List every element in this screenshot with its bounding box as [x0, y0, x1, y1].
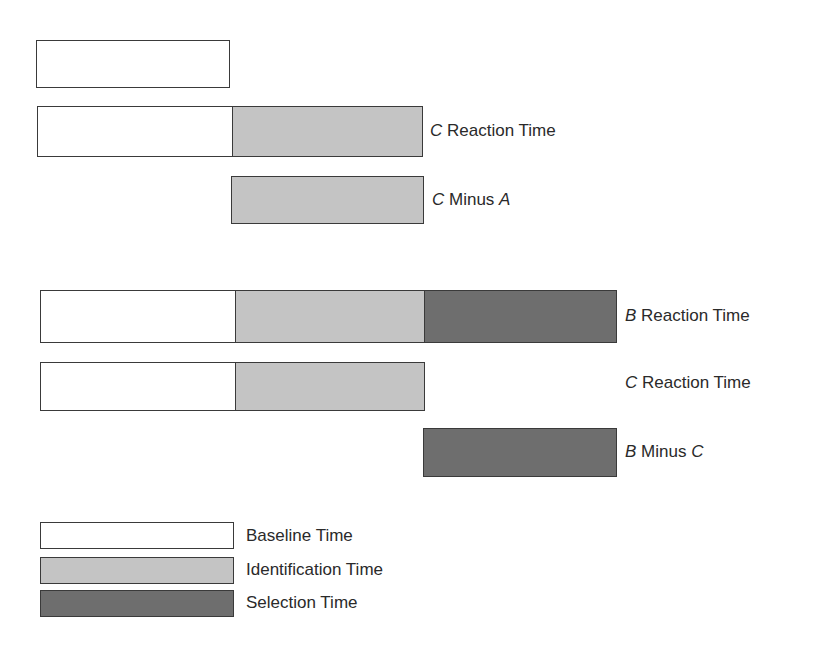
- label-text: Reaction Time: [636, 306, 749, 325]
- segment-baseline: [37, 41, 229, 87]
- label-text: Minus: [636, 442, 691, 461]
- label-variable: B: [625, 306, 636, 325]
- bar-c-reaction-top: [37, 106, 423, 157]
- label-c-minus-a: C Minus A: [432, 190, 510, 210]
- bar-b-reaction: [40, 290, 617, 343]
- label-variable: C: [432, 190, 444, 209]
- segment-identification: [235, 291, 424, 342]
- segment-selection: [424, 291, 616, 342]
- label-c-reaction-bottom: C Reaction Time: [625, 373, 751, 393]
- segment-identification: [235, 363, 424, 410]
- segment-baseline: [41, 291, 235, 342]
- label-text: Reaction Time: [442, 121, 555, 140]
- segment-baseline: [41, 363, 235, 410]
- label-text: Reaction Time: [637, 373, 750, 392]
- segment-selection: [424, 429, 616, 476]
- label-b-reaction: B Reaction Time: [625, 306, 750, 326]
- bar-a-reaction: [36, 40, 230, 88]
- legend-swatch-baseline: [40, 522, 234, 549]
- label-variable: B: [625, 442, 636, 461]
- legend-swatch-identification: [40, 557, 234, 584]
- legend-label-baseline: Baseline Time: [246, 526, 353, 546]
- label-text: Minus: [444, 190, 499, 209]
- label-b-minus-c: B Minus C: [625, 442, 703, 462]
- label-variable-2: C: [691, 442, 703, 461]
- legend-swatch-selection: [40, 590, 234, 617]
- segment-identification: [232, 107, 422, 156]
- bar-b-minus-c: [423, 428, 617, 477]
- bar-c-minus-a: [231, 176, 424, 224]
- segment-baseline: [38, 107, 232, 156]
- bar-c-reaction-bottom: [40, 362, 425, 411]
- label-variable: C: [625, 373, 637, 392]
- legend-label-selection: Selection Time: [246, 593, 358, 613]
- label-variable: C: [430, 121, 442, 140]
- segment-identification: [232, 177, 423, 223]
- label-c-reaction-top: C Reaction Time: [430, 121, 556, 141]
- label-variable-2: A: [499, 190, 510, 209]
- legend-label-identification: Identification Time: [246, 560, 383, 580]
